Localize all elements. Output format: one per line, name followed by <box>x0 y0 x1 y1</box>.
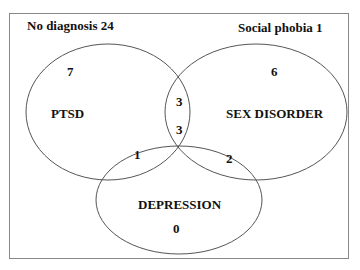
sex-disorder-only-count: 6 <box>271 65 278 78</box>
ptsd-label: PTSD <box>51 107 84 120</box>
sex-disorder-label: SEX DISORDER <box>226 107 323 120</box>
ptsd-depression-count: 1 <box>134 148 141 161</box>
ptsd-sex-count: 3 <box>176 95 183 108</box>
all-three-count: 3 <box>176 123 183 136</box>
ptsd-only-count: 7 <box>67 65 74 78</box>
depression-label: DEPRESSION <box>138 198 221 211</box>
no-diagnosis-label: No diagnosis 24 <box>27 19 114 32</box>
social-phobia-label: Social phobia 1 <box>238 21 323 34</box>
sex-depression-count: 2 <box>226 152 233 165</box>
depression-only-count: 0 <box>173 222 180 235</box>
